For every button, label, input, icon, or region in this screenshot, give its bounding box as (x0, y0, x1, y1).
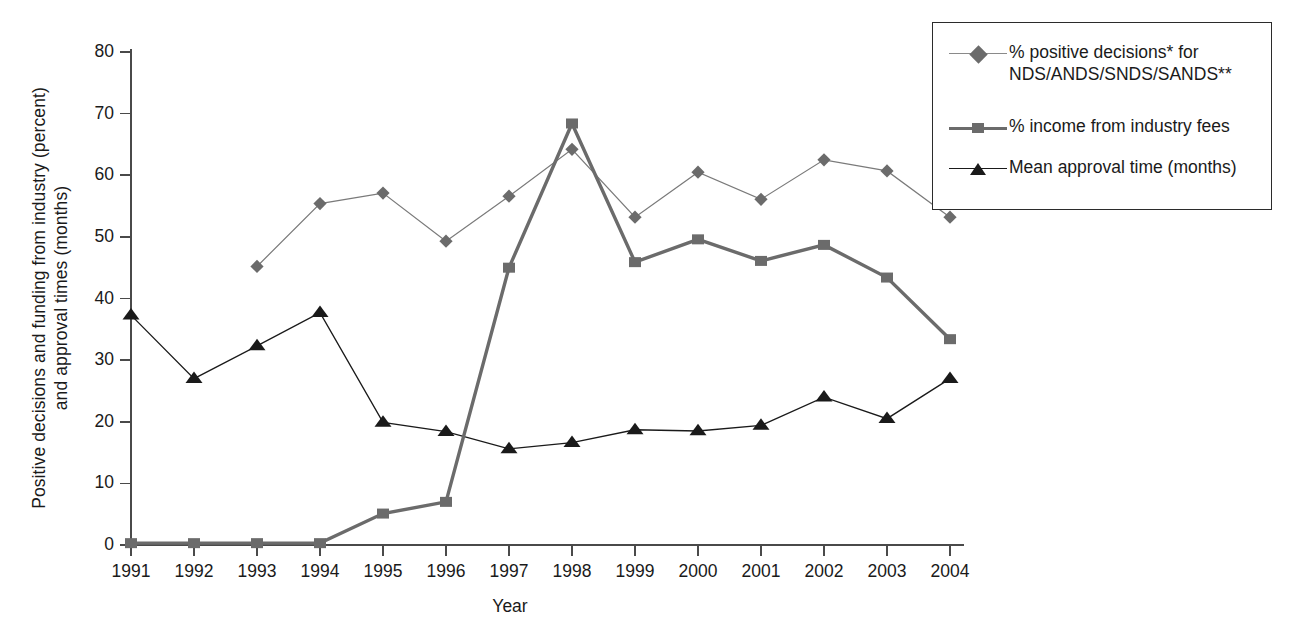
data-point-square (188, 538, 200, 548)
data-point-triangle (249, 339, 266, 351)
data-point-square (251, 538, 263, 548)
data-point-triangle (816, 390, 833, 402)
data-point-diamond (880, 164, 893, 177)
data-point-square (818, 240, 830, 250)
data-point-triangle (942, 371, 959, 383)
data-point-square (629, 257, 641, 267)
data-point-triangle (753, 418, 770, 430)
data-point-diamond (691, 166, 704, 179)
legend-item[interactable]: % income from industry fees (947, 115, 1259, 139)
data-point-square (755, 256, 767, 266)
data-point-square (692, 234, 704, 244)
legend-item[interactable]: Mean approval time (months) (947, 156, 1259, 180)
x-axis-title: Year (100, 596, 920, 617)
data-point-triangle (312, 306, 329, 318)
data-point-diamond (754, 193, 767, 206)
data-point-square (377, 509, 389, 519)
data-point-square (314, 538, 326, 548)
data-point-triangle (123, 308, 140, 320)
data-point-square (440, 497, 452, 507)
data-point-diamond (502, 190, 515, 203)
data-point-triangle (627, 423, 644, 435)
data-point-diamond (376, 187, 389, 200)
data-point-square (125, 538, 137, 548)
series-line-square (131, 123, 950, 543)
legend-marker-diamond-icon (947, 43, 1009, 65)
legend-item[interactable]: % positive decisions* for NDS/ANDS/SNDS/… (947, 41, 1259, 85)
data-point-diamond (439, 235, 452, 248)
data-point-square (566, 118, 578, 128)
data-point-diamond (943, 211, 956, 224)
legend-marker-square-icon (947, 117, 1009, 139)
series-line-diamond (257, 149, 950, 266)
data-point-triangle (690, 424, 707, 436)
data-point-square (503, 263, 515, 273)
legend-marker-triangle-icon (947, 158, 1009, 180)
data-point-diamond (817, 153, 830, 166)
data-point-square (881, 273, 893, 283)
legend-label: % positive decisions* for NDS/ANDS/SNDS/… (1009, 41, 1232, 85)
chart-page: Positive decisions and funding from indu… (0, 0, 1293, 640)
series-line-triangle (131, 313, 950, 449)
data-point-square (944, 334, 956, 344)
data-point-triangle (375, 415, 392, 427)
chart-legend: % positive decisions* for NDS/ANDS/SNDS/… (932, 22, 1272, 210)
legend-label: % income from industry fees (1009, 115, 1230, 137)
legend-label: Mean approval time (months) (1009, 156, 1237, 178)
